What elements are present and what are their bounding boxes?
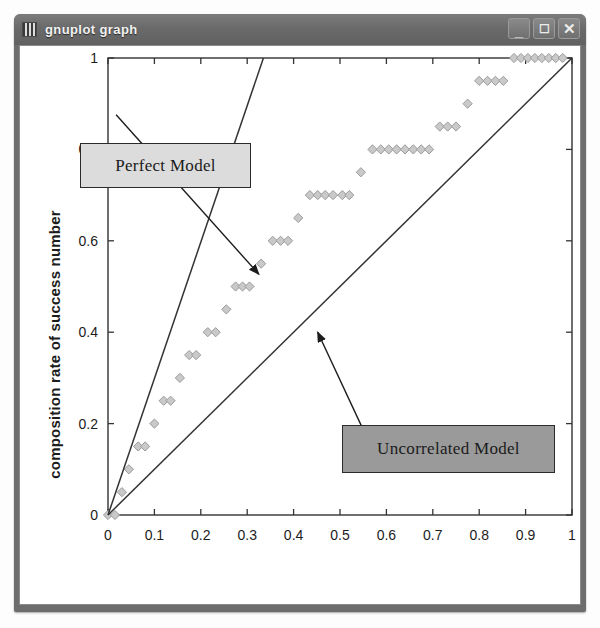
data-point xyxy=(294,213,303,222)
data-point xyxy=(345,191,354,200)
maximize-icon: ☐ xyxy=(534,19,554,39)
gnuplot-window: gnuplot graph _ ☐ ✕ 00.10.20.30.40.50.60… xyxy=(14,14,586,612)
data-point xyxy=(245,282,254,291)
x-tick-label: 0.9 xyxy=(516,527,536,543)
x-tick-label: 1 xyxy=(568,527,576,543)
x-tick-label: 0.1 xyxy=(145,527,165,543)
window-title: gnuplot graph xyxy=(45,22,138,37)
perfect-model-annotation: Perfect Model xyxy=(80,143,251,188)
data-point xyxy=(175,373,184,382)
x-tick-label: 0.2 xyxy=(191,527,211,543)
y-axis-title: composition rate of success number xyxy=(46,145,63,545)
data-point xyxy=(192,350,201,359)
y-tick-label: 0 xyxy=(90,507,98,523)
x-tick-label: 0.5 xyxy=(330,527,350,543)
perfect-model-arrow xyxy=(116,115,259,274)
close-button[interactable]: ✕ xyxy=(558,18,580,39)
data-point xyxy=(117,488,126,497)
plot-canvas: 00.10.20.30.40.50.60.70.80.9100.20.40.60… xyxy=(19,45,581,605)
x-tick-label: 0 xyxy=(104,527,112,543)
maximize-button[interactable]: ☐ xyxy=(533,18,555,39)
uncorrelated-model-annotation: Uncorrelated Model xyxy=(342,425,555,473)
data-point xyxy=(211,328,220,337)
data-point xyxy=(124,465,133,474)
data-point xyxy=(257,259,266,268)
y-tick-label: 0.2 xyxy=(79,416,99,432)
minimize-icon: _ xyxy=(509,25,529,37)
close-icon: ✕ xyxy=(559,19,579,38)
data-point xyxy=(150,419,159,428)
gnuplot-icon xyxy=(22,22,37,37)
data-point xyxy=(166,396,175,405)
x-tick-label: 0.4 xyxy=(284,527,304,543)
data-point xyxy=(424,145,433,154)
x-tick-label: 0.7 xyxy=(423,527,443,543)
data-point xyxy=(558,53,567,62)
minimize-button[interactable]: _ xyxy=(508,18,530,39)
window-titlebar[interactable]: gnuplot graph _ ☐ ✕ xyxy=(14,14,586,45)
x-tick-label: 0.6 xyxy=(377,527,397,543)
screenshot-root: gnuplot graph _ ☐ ✕ 00.10.20.30.40.50.60… xyxy=(0,0,600,628)
data-point xyxy=(499,76,508,85)
data-point xyxy=(141,442,150,451)
data-point xyxy=(283,236,292,245)
data-point xyxy=(328,191,337,200)
y-tick-label: 0.6 xyxy=(79,233,99,249)
lift-chart: 00.10.20.30.40.50.60.70.80.9100.20.40.60… xyxy=(20,46,580,604)
x-tick-label: 0.3 xyxy=(237,527,257,543)
data-point xyxy=(356,168,365,177)
x-tick-label: 0.8 xyxy=(469,527,489,543)
data-point xyxy=(463,99,472,108)
data-point xyxy=(222,305,231,314)
y-tick-label: 1 xyxy=(90,50,98,66)
data-point xyxy=(451,122,460,131)
y-tick-label: 0.4 xyxy=(79,324,99,340)
window-controls: _ ☐ ✕ xyxy=(508,18,580,39)
